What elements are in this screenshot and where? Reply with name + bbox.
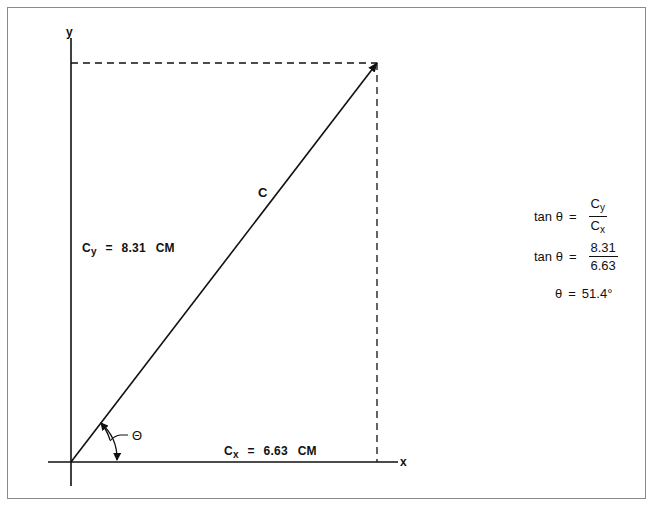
vector-c-arrow: [71, 63, 377, 462]
cx-subscript: x: [233, 449, 239, 460]
eq2-fraction: 8.31 6.63: [589, 240, 618, 273]
cy-equals: =: [105, 241, 112, 255]
equation-theta-result: θ = 51.4°: [555, 286, 612, 301]
cy-value: 8.31: [121, 241, 146, 255]
cx-component-label: Cx = 6.63 CM: [224, 444, 317, 460]
eq1-denominator: Cx: [591, 217, 605, 237]
equation-tan-ratio: tan θ = Cy Cx: [534, 196, 607, 237]
eq3-rhs: 51.4°: [582, 286, 613, 301]
cy-unit: CM: [156, 241, 175, 255]
eq1-lhs: tan θ: [534, 209, 563, 224]
cx-equals: =: [247, 444, 254, 458]
eq2-numerator: 8.31: [589, 240, 618, 257]
angle-arc: [101, 423, 117, 460]
eq3-lhs: θ: [555, 286, 562, 301]
cx-unit: CM: [298, 444, 317, 458]
eq1-numerator: Cy: [589, 196, 607, 217]
eq2-equals: =: [569, 249, 577, 264]
cy-symbol: C: [82, 241, 91, 255]
cy-subscript: y: [91, 246, 97, 257]
cx-symbol: C: [224, 444, 233, 458]
eq1-equals: =: [569, 209, 577, 224]
cy-component-label: Cy = 8.31 CM: [82, 241, 175, 257]
x-axis-label: x: [400, 455, 407, 469]
eq3-equals: =: [568, 286, 576, 301]
equation-tan-values: tan θ = 8.31 6.63: [534, 240, 618, 273]
theta-label: Θ: [132, 428, 142, 443]
eq2-lhs: tan θ: [534, 249, 563, 264]
y-axis-label: y: [66, 25, 73, 39]
eq2-denominator: 6.63: [591, 257, 616, 273]
angle-leader: [110, 435, 128, 441]
eq1-fraction: Cy Cx: [589, 196, 607, 237]
cx-value: 6.63: [263, 444, 288, 458]
vector-c-label: C: [258, 185, 268, 200]
